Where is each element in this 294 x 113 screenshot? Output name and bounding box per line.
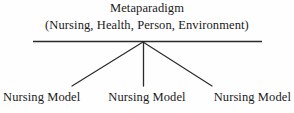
branch-line-left xyxy=(72,42,143,86)
branch-line-right xyxy=(143,42,212,86)
nursing-models-row: Nursing Model Nursing Model Nursing Mode… xyxy=(0,89,294,105)
nursing-model-node-2: Nursing Model xyxy=(108,89,185,105)
metaparadigm-diagram: Metaparadigm (Nursing, Health, Person, E… xyxy=(0,0,294,113)
nursing-model-node-3: Nursing Model xyxy=(214,89,291,105)
metaparadigm-concepts-list: (Nursing, Health, Person, Environment) xyxy=(0,17,294,34)
metaparadigm-root-node: Metaparadigm (Nursing, Health, Person, E… xyxy=(0,0,294,34)
nursing-model-node-1: Nursing Model xyxy=(3,89,80,105)
metaparadigm-title: Metaparadigm xyxy=(0,0,294,17)
